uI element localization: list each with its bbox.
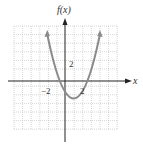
parabola-curve: [47, 34, 100, 99]
grid: [14, 26, 117, 130]
curve-arrow-left-icon: [45, 30, 51, 37]
parabola-chart: f(x) x −2 2 2: [0, 0, 143, 146]
x-axis-arrow-icon: [125, 79, 132, 84]
y-tick-2: 2: [69, 59, 74, 69]
y-axis-arrow-icon: [63, 18, 68, 25]
curve-arrow-right-icon: [97, 30, 103, 37]
x-axis-label: x: [132, 75, 138, 86]
x-tick-neg2: −2: [41, 86, 51, 96]
x-tick-2: 2: [80, 86, 85, 96]
axes: [8, 22, 128, 142]
y-axis-label: f(x): [57, 4, 72, 16]
